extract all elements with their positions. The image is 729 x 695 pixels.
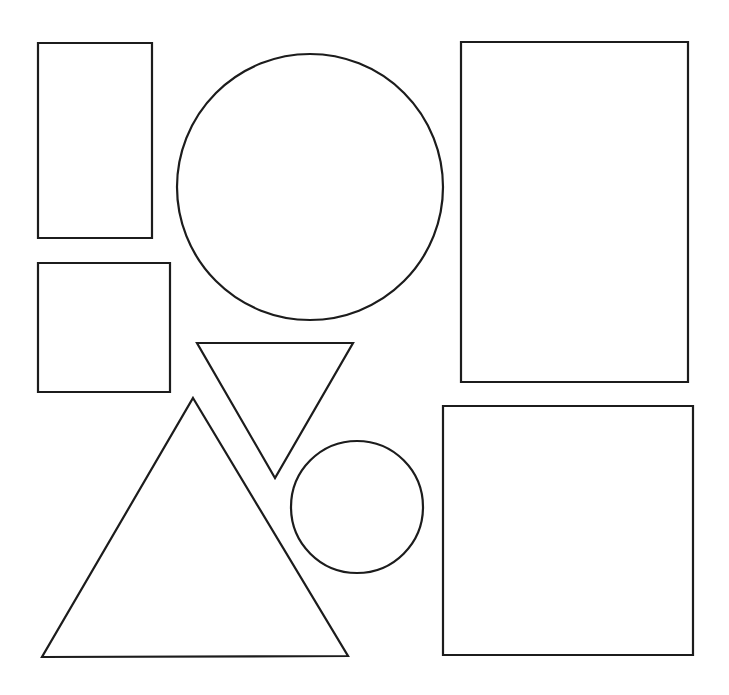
shape-large-portrait-rectangle[interactable]	[461, 42, 688, 382]
shape-small-circle[interactable]	[291, 441, 423, 573]
shapes-canvas	[0, 0, 729, 695]
shape-large-circle[interactable]	[177, 54, 443, 320]
shape-tall-rectangle[interactable]	[38, 43, 152, 238]
shape-small-square[interactable]	[38, 263, 170, 392]
shape-drawing-surface	[0, 0, 729, 695]
shape-inverted-triangle[interactable]	[197, 343, 353, 478]
shape-large-square[interactable]	[443, 406, 693, 655]
shape-large-triangle[interactable]	[42, 398, 348, 657]
